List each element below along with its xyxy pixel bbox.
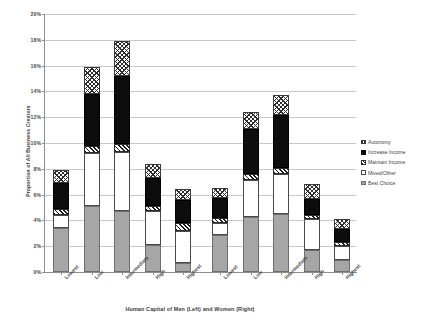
bar-segment-increase xyxy=(175,200,191,223)
legend-label: Best Choice xyxy=(368,180,395,186)
x-axis-tick-mark xyxy=(122,272,123,275)
y-axis-tick-label: 16% xyxy=(31,63,41,69)
bar-segment-best xyxy=(53,228,69,272)
bar-segment-maintain xyxy=(304,215,320,219)
legend-swatch-autonomy-icon xyxy=(361,140,366,145)
bar-segment-best xyxy=(212,235,228,272)
legend-item-increase[interactable]: Increase Income xyxy=(361,147,427,157)
legend-label: Autonomy xyxy=(368,139,391,145)
bar-segment-best xyxy=(273,214,289,272)
bar-segment-autonomy xyxy=(114,41,130,76)
x-axis-tick-mark xyxy=(153,272,154,275)
x-axis-tick-mark xyxy=(61,272,62,275)
y-axis-tick-mark xyxy=(42,220,45,221)
bar-segment-best xyxy=(243,217,259,272)
gridline xyxy=(44,40,356,41)
legend-swatch-best-icon xyxy=(361,181,366,186)
bar-segment-autonomy xyxy=(53,170,69,183)
bar-segment-maintain xyxy=(243,174,259,180)
x-axis-tick-mark xyxy=(183,272,184,275)
bar-men-lowest[interactable] xyxy=(53,170,69,272)
y-axis-tick-label: 2% xyxy=(34,243,42,249)
y-axis-tick-mark xyxy=(42,40,45,41)
legend-item-maintain[interactable]: Maintain Income xyxy=(361,157,427,167)
legend-item-mixed[interactable]: Mixed/Other xyxy=(361,168,427,178)
bar-segment-maintain xyxy=(212,218,228,223)
legend-swatch-mixed-icon xyxy=(361,170,366,175)
y-axis-title: Proportion of All Business Creators xyxy=(25,71,31,231)
legend-swatch-increase-icon xyxy=(361,150,366,155)
bar-segment-maintain xyxy=(84,146,100,154)
y-axis-tick-mark xyxy=(42,195,45,196)
legend-label: Maintain Income xyxy=(368,159,405,165)
y-axis-tick-mark xyxy=(42,14,45,15)
y-axis-tick-mark xyxy=(42,143,45,144)
x-axis-tick-mark xyxy=(281,272,282,275)
bar-segment-increase xyxy=(84,94,100,146)
legend-item-best[interactable]: Best Choice xyxy=(361,178,427,188)
bar-segment-best xyxy=(114,211,130,272)
y-axis-tick-mark xyxy=(42,66,45,67)
bar-segment-mixed xyxy=(175,231,191,263)
bar-segment-increase xyxy=(114,76,130,144)
bar-segment-maintain xyxy=(334,242,350,246)
chart-legend: AutonomyIncrease IncomeMaintain IncomeMi… xyxy=(361,137,427,188)
bar-segment-autonomy xyxy=(243,112,259,129)
y-axis-tick-mark xyxy=(42,272,45,273)
plot-area: 0%2%4%6%8%10%12%14%16%18%20% xyxy=(44,14,356,272)
bar-segment-mixed xyxy=(212,223,228,235)
bar-men-intermediate[interactable] xyxy=(114,41,130,272)
bar-women-lowest[interactable] xyxy=(212,188,228,272)
legend-swatch-maintain-icon xyxy=(361,160,366,165)
bar-segment-maintain xyxy=(114,144,130,152)
y-axis-tick-label: 18% xyxy=(31,37,41,43)
x-axis-title: Human Capital of Men (Left) and Women (R… xyxy=(0,306,380,312)
bar-segment-maintain xyxy=(53,209,69,215)
y-axis-tick-label: 20% xyxy=(31,11,41,17)
bar-segment-autonomy xyxy=(334,219,350,229)
y-axis-tick-label: 14% xyxy=(31,88,41,94)
bar-segment-autonomy xyxy=(273,95,289,114)
bar-segment-best xyxy=(84,206,100,272)
bar-segment-mixed xyxy=(84,153,100,206)
y-axis-tick-mark xyxy=(42,91,45,92)
y-axis-tick-label: 0% xyxy=(34,269,42,275)
y-axis-tick-label: 10% xyxy=(31,140,41,146)
legend-item-autonomy[interactable]: Autonomy xyxy=(361,137,427,147)
y-axis-tick-label: 8% xyxy=(34,166,42,172)
bar-segment-mixed xyxy=(304,219,320,250)
x-axis-tick-mark xyxy=(220,272,221,275)
bar-segment-autonomy xyxy=(175,189,191,199)
bar-segment-maintain xyxy=(145,206,161,211)
bar-segment-autonomy xyxy=(212,188,228,198)
bar-segment-mixed xyxy=(273,174,289,214)
bar-women-low[interactable] xyxy=(243,112,259,272)
bar-segment-best xyxy=(334,260,350,272)
bar-segment-autonomy xyxy=(304,184,320,198)
bar-segment-mixed xyxy=(334,246,350,260)
bar-women-intermediate[interactable] xyxy=(273,95,289,272)
bar-segment-mixed xyxy=(114,152,130,211)
bar-segment-autonomy xyxy=(145,164,161,178)
y-axis-tick-mark xyxy=(42,246,45,247)
bar-segment-increase xyxy=(243,129,259,174)
bar-men-highest[interactable] xyxy=(175,189,191,272)
legend-label: Mixed/Other xyxy=(368,170,396,176)
bar-segment-mixed xyxy=(145,211,161,245)
stacked-bar-chart: Proportion of All Business Creators Huma… xyxy=(0,0,428,325)
y-axis-tick-label: 6% xyxy=(34,192,42,198)
bar-segment-increase xyxy=(304,199,320,216)
bar-women-highest[interactable] xyxy=(334,219,350,272)
bar-segment-autonomy xyxy=(84,67,100,94)
bar-segment-mixed xyxy=(243,180,259,216)
y-axis-tick-label: 4% xyxy=(34,217,42,223)
bar-segment-increase xyxy=(53,183,69,209)
x-axis-tick-mark xyxy=(342,272,343,275)
bar-segment-mixed xyxy=(53,215,69,228)
legend-label: Increase Income xyxy=(368,149,406,155)
bar-segment-maintain xyxy=(273,168,289,174)
gridline xyxy=(44,14,356,15)
bar-segment-increase xyxy=(334,229,350,242)
bar-segment-increase xyxy=(212,198,228,217)
bar-men-low[interactable] xyxy=(84,67,100,272)
